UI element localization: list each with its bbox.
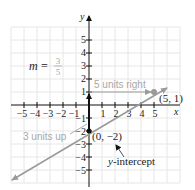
run-annotation: 5 units right: [94, 79, 146, 90]
y-axis-label: y: [79, 11, 85, 22]
y-tick-label: 4: [81, 47, 86, 58]
intercept-point: [87, 129, 92, 134]
x-tick-label: 5: [153, 108, 158, 119]
y-tick-label: 1: [81, 86, 86, 97]
point-label-0-neg2: (0, −2): [92, 130, 122, 143]
second-point: [151, 89, 157, 95]
x-tick-labels: −5 −4 −3 −2 −1 1 2 3 4 5: [17, 108, 158, 119]
y-intercept-annotation: y-intercept: [107, 155, 155, 167]
slope-m: m: [29, 59, 38, 73]
x-tick-label: 1: [101, 108, 106, 119]
slope-numerator: 3: [56, 56, 61, 66]
rise-annotation: 3 units up: [23, 131, 67, 142]
y-tick-label: −1: [75, 113, 86, 124]
point-label-5-1: (5, 1): [159, 92, 183, 105]
x-tick-label: −4: [30, 108, 41, 119]
y-tick-label: 2: [81, 73, 86, 84]
x-tick-label: −2: [56, 108, 67, 119]
slope-graph: −5 −4 −3 −2 −1 1 2 3 4 5 x 5 4 3 2 1 −1 …: [0, 0, 195, 190]
slope-denominator: 5: [56, 67, 61, 77]
y-tick-label: −5: [75, 165, 86, 176]
slope-equals: =: [41, 59, 48, 73]
y-tick-label: 3: [81, 60, 86, 71]
x-tick-label: −5: [17, 108, 28, 119]
x-axis-label: x: [173, 106, 179, 117]
y-tick-label: −4: [75, 152, 86, 163]
x-tick-label: −3: [43, 108, 54, 119]
slope-label: m = 3 5: [29, 56, 62, 77]
x-tick-label: 4: [140, 108, 145, 119]
y-tick-label: 5: [81, 34, 86, 45]
